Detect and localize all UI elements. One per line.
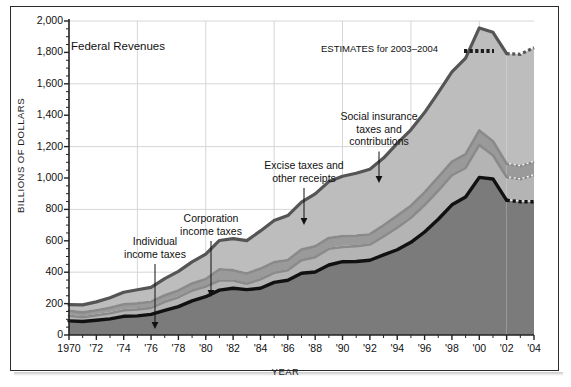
- y-tick-label: 200: [17, 297, 63, 309]
- estimates-dotted-swatch: [463, 49, 495, 53]
- annotation-individual-income-taxes: Individual income taxes: [103, 235, 207, 260]
- annotation-social-insurance: Social insurance taxes and contributions: [329, 110, 429, 148]
- y-tick-label: 400: [17, 265, 63, 277]
- annotation-excise-taxes: Excise taxes and other receipts: [249, 159, 359, 184]
- estimates-note-label: ESTIMATES for 2003–2004: [321, 43, 438, 54]
- annotation-corporation-income-taxes: Corporation income taxes: [159, 212, 263, 237]
- y-tick-label: 0: [17, 328, 63, 340]
- chart-frame: Federal Revenues ESTIMATES for 2003–2004…: [10, 6, 559, 371]
- y-tick-label: 2,000: [17, 14, 63, 26]
- chart-title: Federal Revenues: [71, 40, 165, 52]
- y-tick-label: 600: [17, 234, 63, 246]
- federal-revenues-area-chart: [11, 7, 557, 369]
- y-axis-title: BILLIONS OF DOLLARS: [15, 91, 26, 221]
- x-tick-label: '04: [514, 342, 554, 354]
- x-axis-title: YEAR: [0, 366, 571, 377]
- chart-page: Federal Revenues ESTIMATES for 2003–2004…: [0, 0, 571, 387]
- y-tick-label: 1,600: [17, 77, 63, 89]
- y-tick-label: 1,800: [17, 45, 63, 57]
